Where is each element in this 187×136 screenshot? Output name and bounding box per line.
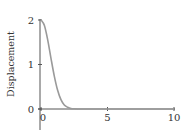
ticks: 0510012 [28,15,181,124]
x-tick-label: 5 [104,112,110,123]
y-axis-title: Displacement [5,31,16,97]
series-line-displacement [41,20,174,109]
x-tick-label: 10 [168,112,181,123]
displacement-chart: 0510012 Displacement [0,0,187,136]
y-tick-label: 1 [28,59,34,70]
x-tick-label: 0 [40,112,46,123]
series-layer [41,20,174,109]
y-tick-label: 0 [28,104,34,115]
y-tick-label: 2 [28,15,34,26]
